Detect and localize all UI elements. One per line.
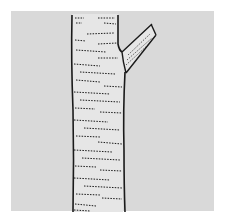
tree-trunk-illustration [0,0,226,224]
